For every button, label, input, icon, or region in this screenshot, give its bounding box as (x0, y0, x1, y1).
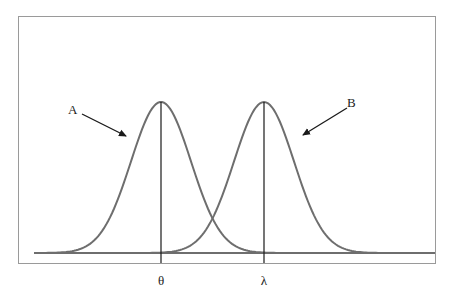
curve-a-label: A (68, 102, 78, 117)
curve-a (34, 102, 434, 253)
two-normal-distributions-diagram: A B θ λ (0, 0, 450, 305)
curve-b-label: B (347, 95, 356, 110)
arrow-b-icon (303, 108, 347, 135)
lambda-label: λ (261, 273, 268, 288)
arrow-a-icon (82, 114, 126, 136)
plot-frame (19, 17, 436, 264)
curve-b (34, 102, 434, 253)
theta-label: θ (158, 273, 164, 288)
